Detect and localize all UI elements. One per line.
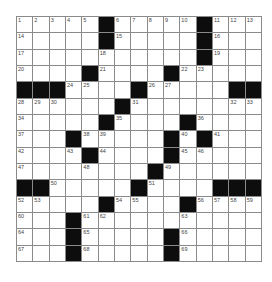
grid-cell[interactable]: 11	[212, 16, 228, 32]
grid-cell[interactable]	[114, 130, 130, 146]
grid-cell[interactable]	[147, 130, 163, 146]
grid-cell[interactable]	[65, 32, 81, 48]
grid-cell[interactable]: 1	[16, 16, 32, 32]
grid-cell[interactable]	[49, 228, 65, 244]
grid-cell[interactable]: 56	[196, 196, 212, 212]
grid-cell[interactable]	[245, 32, 261, 48]
grid-cell[interactable]	[147, 245, 163, 261]
grid-cell[interactable]: 63	[179, 212, 195, 228]
grid-cell[interactable]	[245, 245, 261, 261]
grid-cell[interactable]: 31	[130, 98, 146, 114]
grid-cell[interactable]: 9	[163, 16, 179, 32]
grid-cell[interactable]	[245, 147, 261, 163]
grid-cell[interactable]	[245, 49, 261, 65]
grid-cell[interactable]: 12	[228, 16, 244, 32]
grid-cell[interactable]	[114, 147, 130, 163]
grid-cell[interactable]	[147, 65, 163, 81]
grid-cell[interactable]	[32, 32, 48, 48]
grid-cell[interactable]	[114, 163, 130, 179]
grid-cell[interactable]: 44	[98, 147, 114, 163]
grid-cell[interactable]	[196, 228, 212, 244]
grid-cell[interactable]	[228, 49, 244, 65]
grid-cell[interactable]: 37	[16, 130, 32, 146]
grid-cell[interactable]	[196, 81, 212, 97]
grid-cell[interactable]	[245, 65, 261, 81]
grid-cell[interactable]	[49, 65, 65, 81]
grid-cell[interactable]: 25	[81, 81, 97, 97]
grid-cell[interactable]	[212, 228, 228, 244]
grid-cell[interactable]	[179, 163, 195, 179]
grid-cell[interactable]	[65, 179, 81, 195]
grid-cell[interactable]	[179, 81, 195, 97]
grid-cell[interactable]: 2	[32, 16, 48, 32]
grid-cell[interactable]	[147, 147, 163, 163]
grid-cell[interactable]: 47	[16, 163, 32, 179]
grid-cell[interactable]	[179, 32, 195, 48]
grid-cell[interactable]: 69	[179, 245, 195, 261]
grid-cell[interactable]	[163, 179, 179, 195]
grid-cell[interactable]	[65, 114, 81, 130]
grid-cell[interactable]: 17	[16, 49, 32, 65]
grid-cell[interactable]	[228, 212, 244, 228]
grid-cell[interactable]: 66	[179, 228, 195, 244]
grid-cell[interactable]: 35	[114, 114, 130, 130]
grid-cell[interactable]	[147, 228, 163, 244]
grid-cell[interactable]: 68	[81, 245, 97, 261]
grid-cell[interactable]	[49, 130, 65, 146]
grid-cell[interactable]	[81, 196, 97, 212]
grid-cell[interactable]: 57	[212, 196, 228, 212]
grid-cell[interactable]	[114, 212, 130, 228]
grid-cell[interactable]	[98, 163, 114, 179]
grid-cell[interactable]: 48	[81, 163, 97, 179]
grid-cell[interactable]	[245, 228, 261, 244]
grid-cell[interactable]: 21	[98, 65, 114, 81]
grid-cell[interactable]	[65, 163, 81, 179]
grid-cell[interactable]	[228, 65, 244, 81]
grid-cell[interactable]	[228, 228, 244, 244]
grid-cell[interactable]	[179, 98, 195, 114]
grid-cell[interactable]: 55	[130, 196, 146, 212]
grid-cell[interactable]	[130, 147, 146, 163]
grid-cell[interactable]: 8	[147, 16, 163, 32]
grid-cell[interactable]: 59	[245, 196, 261, 212]
grid-cell[interactable]	[130, 32, 146, 48]
grid-cell[interactable]	[98, 228, 114, 244]
grid-cell[interactable]	[179, 179, 195, 195]
grid-cell[interactable]: 16	[212, 32, 228, 48]
grid-cell[interactable]	[130, 65, 146, 81]
grid-cell[interactable]	[147, 114, 163, 130]
grid-cell[interactable]	[130, 130, 146, 146]
grid-cell[interactable]: 49	[163, 163, 179, 179]
grid-cell[interactable]: 32	[228, 98, 244, 114]
grid-cell[interactable]: 22	[179, 65, 195, 81]
grid-cell[interactable]	[130, 114, 146, 130]
grid-cell[interactable]	[130, 245, 146, 261]
grid-cell[interactable]	[147, 98, 163, 114]
grid-cell[interactable]: 26	[147, 81, 163, 97]
grid-cell[interactable]	[130, 163, 146, 179]
grid-cell[interactable]: 36	[196, 114, 212, 130]
grid-cell[interactable]	[196, 163, 212, 179]
grid-cell[interactable]	[196, 179, 212, 195]
grid-cell[interactable]	[65, 196, 81, 212]
grid-cell[interactable]	[114, 81, 130, 97]
grid-cell[interactable]	[212, 114, 228, 130]
grid-cell[interactable]	[147, 196, 163, 212]
grid-cell[interactable]	[98, 98, 114, 114]
grid-cell[interactable]: 10	[179, 16, 195, 32]
grid-cell[interactable]	[32, 212, 48, 228]
grid-cell[interactable]: 30	[49, 98, 65, 114]
grid-cell[interactable]	[163, 32, 179, 48]
grid-cell[interactable]: 6	[114, 16, 130, 32]
grid-cell[interactable]	[130, 212, 146, 228]
grid-cell[interactable]: 51	[147, 179, 163, 195]
grid-cell[interactable]	[32, 147, 48, 163]
grid-cell[interactable]: 4	[65, 16, 81, 32]
grid-cell[interactable]	[228, 163, 244, 179]
grid-cell[interactable]	[179, 49, 195, 65]
grid-cell[interactable]	[212, 245, 228, 261]
grid-cell[interactable]	[196, 212, 212, 228]
grid-cell[interactable]: 62	[98, 212, 114, 228]
grid-cell[interactable]	[32, 130, 48, 146]
grid-cell[interactable]: 43	[65, 147, 81, 163]
